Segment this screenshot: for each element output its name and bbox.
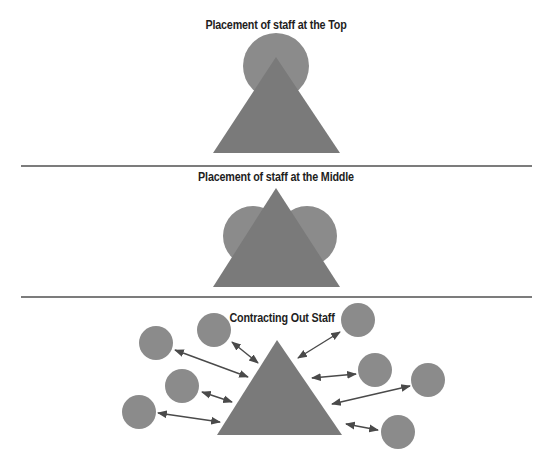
contractor-circle	[358, 353, 392, 387]
contractor-circle	[381, 415, 415, 449]
panel-title-contracting-out: Contracting Out Staff	[45, 311, 520, 325]
section-divider	[21, 296, 532, 298]
contractor-circle	[139, 326, 173, 360]
double-arrow-icon	[346, 424, 378, 430]
section-divider	[21, 165, 532, 167]
double-arrow-icon	[158, 413, 220, 422]
staff-placement-diagram: Placement of staff at the Top	[0, 0, 552, 469]
contractor-circle	[411, 363, 445, 397]
diagram-canvas	[0, 0, 552, 469]
double-arrow-icon	[202, 392, 232, 402]
double-arrow-icon	[232, 342, 258, 363]
panel-title-middle: Placement of staff at the Middle	[39, 170, 514, 184]
organization-triangle	[217, 340, 342, 435]
panel-middle	[213, 188, 340, 287]
double-arrow-icon	[312, 374, 356, 378]
panel-top	[213, 33, 340, 153]
double-arrow-icon	[298, 332, 340, 358]
contractor-circle	[122, 395, 156, 429]
contractor-circle	[165, 369, 199, 403]
organization-triangle	[213, 57, 340, 153]
double-arrow-icon	[332, 386, 410, 404]
